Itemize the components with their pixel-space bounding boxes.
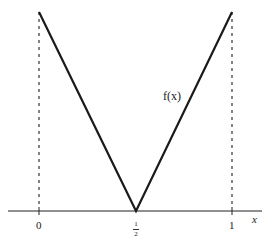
plot-svg	[0, 0, 279, 243]
function-label: f(x)	[163, 90, 181, 102]
function-curve	[39, 12, 232, 211]
tick-label-half: 1 2	[133, 217, 139, 238]
x-axis-label: x	[252, 214, 257, 225]
function-diagram: f(x) x 0 1 2 1	[0, 0, 279, 243]
tick-label-1: 1	[229, 220, 235, 231]
tick-label-0: 0	[36, 220, 42, 231]
